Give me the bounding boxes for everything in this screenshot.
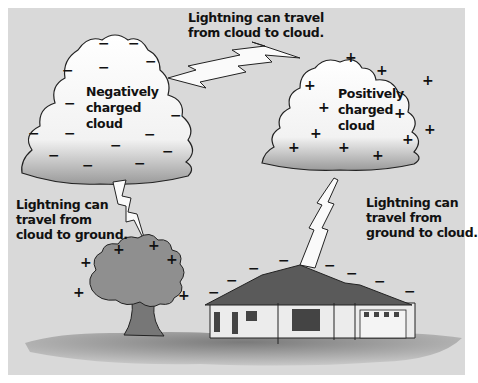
svg-text:−: − xyxy=(145,53,157,69)
svg-text:+: + xyxy=(288,139,300,155)
svg-text:−: − xyxy=(98,59,110,75)
svg-text:+: + xyxy=(372,147,384,163)
lightning-bolt-ground-to-cloud xyxy=(300,178,338,268)
svg-text:−: − xyxy=(64,95,76,111)
svg-text:−: − xyxy=(346,265,358,281)
lightning-bolt-cloud-to-cloud xyxy=(168,42,300,88)
svg-text:−: − xyxy=(278,252,290,268)
svg-text:+: + xyxy=(148,237,160,253)
svg-text:−: − xyxy=(208,284,220,300)
svg-text:+: + xyxy=(80,254,92,270)
svg-text:−: − xyxy=(374,273,386,289)
svg-text:+: + xyxy=(310,125,322,141)
svg-text:−: − xyxy=(110,137,122,153)
svg-text:+: + xyxy=(338,139,350,155)
svg-text:+: + xyxy=(113,241,125,257)
label-positive-cloud: Positively charged cloud xyxy=(338,86,404,134)
svg-text:−: − xyxy=(98,35,110,51)
svg-text:−: − xyxy=(170,107,182,123)
svg-text:−: − xyxy=(248,260,260,276)
svg-text:−: − xyxy=(128,35,140,51)
label-cloud-to-ground: Lightning can travel from cloud to groun… xyxy=(16,197,128,242)
tree xyxy=(90,234,184,336)
svg-text:−: − xyxy=(324,257,336,273)
svg-text:+: + xyxy=(318,99,330,115)
svg-text:+: + xyxy=(73,284,85,300)
svg-text:+: + xyxy=(345,49,357,65)
svg-text:−: − xyxy=(62,62,74,78)
label-cloud-to-cloud: Lightning can travel from cloud to cloud… xyxy=(188,10,324,40)
svg-text:−: − xyxy=(162,143,174,159)
svg-text:+: + xyxy=(376,62,388,78)
svg-text:+: + xyxy=(166,251,178,267)
label-ground-to-cloud: Lightning can travel from ground to clou… xyxy=(366,195,478,240)
svg-text:+: + xyxy=(422,72,434,88)
svg-text:+: + xyxy=(424,121,436,137)
svg-text:−: − xyxy=(28,125,40,141)
svg-text:−: − xyxy=(226,272,238,288)
label-negative-cloud: Negatively charged cloud xyxy=(86,84,159,132)
svg-text:−: − xyxy=(64,125,76,141)
svg-text:−: − xyxy=(82,157,94,173)
svg-text:−: − xyxy=(404,283,416,299)
svg-text:−: − xyxy=(134,155,146,171)
svg-text:−: − xyxy=(48,147,60,163)
svg-text:+: + xyxy=(178,287,190,303)
svg-text:+: + xyxy=(304,77,316,93)
